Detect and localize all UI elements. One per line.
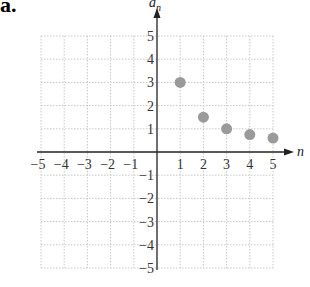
x-tick-label: 3 xyxy=(223,157,230,172)
data-point xyxy=(244,129,255,140)
x-axis-arrow-icon xyxy=(284,149,294,156)
y-tick-label: 5 xyxy=(147,29,154,44)
x-tick-label: −1 xyxy=(123,157,138,172)
x-tick-label: 2 xyxy=(200,157,207,172)
y-tick-label: 4 xyxy=(147,52,154,67)
x-axis-label: n xyxy=(297,144,304,159)
y-axis-label: an xyxy=(149,0,161,13)
y-tick-label: 1 xyxy=(147,122,154,137)
y-tick-label: −4 xyxy=(139,238,154,253)
y-tick-label: −1 xyxy=(139,168,154,183)
y-tick-label: −3 xyxy=(139,215,154,230)
x-tick-label: −5 xyxy=(31,157,46,172)
data-point xyxy=(221,123,232,134)
x-tick-label: −2 xyxy=(100,157,115,172)
data-point xyxy=(198,112,209,123)
chart-plot: nan−5−4−3−2−11234554321−1−2−3−4−5 xyxy=(0,0,310,287)
x-tick-label: 5 xyxy=(270,157,277,172)
x-tick-label: 1 xyxy=(177,157,184,172)
y-tick-label: −2 xyxy=(139,191,154,206)
y-tick-label: 2 xyxy=(147,99,154,114)
y-tick-label: 3 xyxy=(147,75,154,90)
y-tick-label: −5 xyxy=(139,261,154,276)
x-tick-label: −4 xyxy=(54,157,69,172)
data-point xyxy=(268,133,279,144)
data-point xyxy=(175,77,186,88)
x-tick-label: −3 xyxy=(77,157,92,172)
x-tick-label: 4 xyxy=(246,157,253,172)
